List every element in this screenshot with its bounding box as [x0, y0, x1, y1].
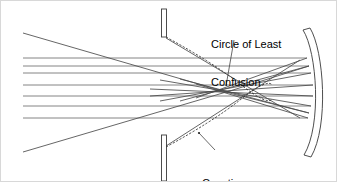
optical-diagram-figure: Circle of Least Confusion Caustic: [0, 0, 337, 182]
leader-dot-caustic: [198, 132, 200, 134]
label-circle-of-least-confusion-line1: Circle of Least: [211, 38, 281, 51]
label-circle-of-least-confusion-line2: Confusion: [211, 76, 281, 89]
concave-mirror: [303, 28, 323, 157]
label-caustic-text: Caustic: [202, 177, 239, 182]
label-caustic: Caustic: [202, 152, 239, 182]
marginal-ray-bottom: [23, 90, 233, 152]
label-circle-of-least-confusion: Circle of Least Confusion: [211, 13, 281, 113]
aperture-stop-top-bar: [162, 9, 167, 37]
aperture-stop-bottom-bar: [162, 135, 167, 181]
mirror-surface: [303, 28, 323, 157]
diagram-canvas: [0, 0, 337, 182]
leader-line-caustic: [199, 133, 215, 150]
